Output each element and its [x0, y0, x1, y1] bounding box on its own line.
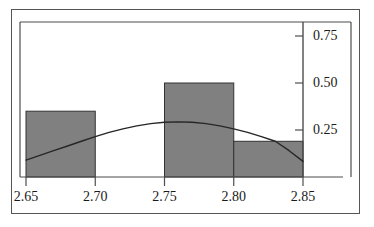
histogram-bar: [234, 141, 303, 177]
y-tick-label: 0.75: [313, 29, 338, 43]
x-tick-label: 2.70: [83, 190, 108, 204]
histogram-figure: 2.652.702.752.802.85 0.250.500.75: [0, 0, 374, 227]
x-tick-label: 2.75: [152, 190, 177, 204]
histogram-bar: [26, 111, 95, 177]
histogram-bar: [165, 83, 234, 177]
bars-group: [26, 83, 303, 177]
y-tick-label: 0.25: [313, 123, 338, 137]
x-tick-label: 2.65: [14, 190, 39, 204]
plot-area: 2.652.702.752.802.85 0.250.500.75: [0, 0, 374, 227]
y-tick-label: 0.50: [313, 76, 338, 90]
x-tick-label: 2.85: [291, 190, 316, 204]
x-tick-label: 2.80: [222, 190, 247, 204]
